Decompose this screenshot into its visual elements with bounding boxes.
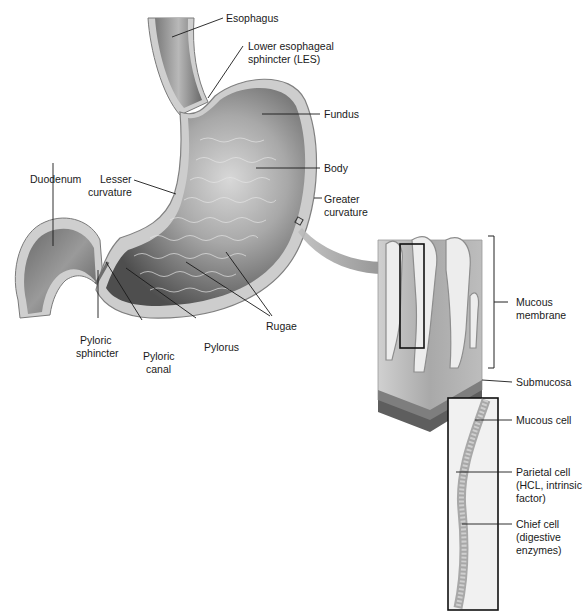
label-lesser-line2: curvature — [88, 186, 132, 199]
label-greater-line2: curvature — [324, 206, 368, 219]
stomach-diagram: Esophagus Lower esophageal sphincter (LE… — [0, 0, 585, 615]
label-les-line2: sphincter (LES) — [248, 53, 320, 66]
label-duodenum: Duodenum — [30, 173, 81, 186]
esophagus-shape — [148, 18, 208, 115]
label-pyloric-canal-line2: canal — [146, 363, 171, 376]
stomach-shape — [96, 79, 316, 318]
label-submucosa: Submucosa — [516, 376, 571, 389]
label-esophagus: Esophagus — [226, 12, 279, 25]
label-chief-line1: Chief cell — [516, 518, 559, 531]
label-chief-line2: (digestive — [516, 531, 561, 544]
label-chief-line3: enzymes) — [516, 544, 562, 557]
label-pyloric-sphincter-line2: sphincter — [76, 347, 119, 360]
label-parietal-line2: (HCL, intrinsic — [516, 479, 582, 492]
label-rugae: Rugae — [266, 320, 297, 333]
label-body: Body — [324, 162, 348, 175]
mucous-membrane-bracket — [488, 236, 508, 368]
label-mucous-membrane-line2: membrane — [516, 309, 566, 322]
label-parietal-line1: Parietal cell — [516, 466, 570, 479]
label-mucous-membrane-line1: Mucous — [516, 296, 553, 309]
label-mucous-cell: Mucous cell — [516, 414, 571, 427]
label-lesser-line1: Lesser — [100, 173, 132, 186]
label-parietal-line3: factor) — [516, 492, 546, 505]
duodenum-shape — [15, 218, 104, 318]
label-les-line1: Lower esophageal — [248, 40, 334, 53]
label-fundus: Fundus — [324, 108, 359, 121]
label-pyloric-canal-line1: Pyloric — [143, 350, 175, 363]
label-greater-line1: Greater — [324, 193, 360, 206]
diagram-graphics — [0, 0, 585, 615]
label-pyloric-sphincter-line1: Pyloric — [80, 334, 112, 347]
label-pylorus: Pylorus — [204, 341, 239, 354]
cell-detail-panel — [448, 398, 498, 610]
